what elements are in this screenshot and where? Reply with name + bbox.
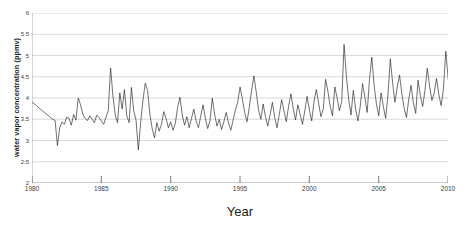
x-axis-title: Year bbox=[32, 204, 448, 219]
x-tick-label: 2005 bbox=[359, 186, 399, 193]
x-axis-tick-labels: 1980198519901995200020052010 bbox=[0, 0, 474, 226]
x-tick-label: 2010 bbox=[428, 186, 468, 193]
x-tick-label: 1990 bbox=[151, 186, 191, 193]
chart-figure: water vapor concentration (ppmv) 22.533.… bbox=[0, 0, 474, 226]
x-tick-label: 1995 bbox=[220, 186, 260, 193]
x-tick-label: 1980 bbox=[12, 186, 52, 193]
x-tick-label: 2000 bbox=[289, 186, 329, 193]
x-tick-label: 1985 bbox=[81, 186, 121, 193]
